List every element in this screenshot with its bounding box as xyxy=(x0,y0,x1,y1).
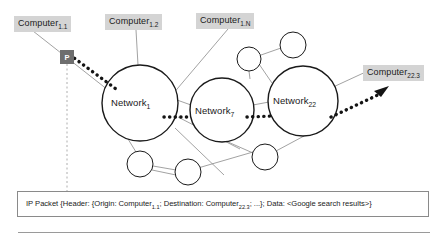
link-router-bot-a-to-router-bot-b-lower xyxy=(152,170,176,175)
host-label-computer-1-1: Computer1.1 xyxy=(14,16,71,32)
host-label-subscript: 1.2 xyxy=(149,20,158,27)
network-label-subscript: 22 xyxy=(309,101,317,108)
link-router-top-a-to-network-22 xyxy=(259,64,272,83)
host-label-subscript: 1.N xyxy=(240,19,250,26)
host-label-computer-1-2: Computer1.2 xyxy=(105,14,162,30)
caption-origin-subscript: 1.1 xyxy=(152,203,160,209)
host-label-name: Computer xyxy=(109,16,149,26)
caption-destination-subscript: 22.3 xyxy=(239,203,250,209)
network-label-name: Network xyxy=(111,97,147,108)
router-bot-a xyxy=(127,151,153,177)
caption-suffix: ; ...}; Data: <Google search results>} xyxy=(250,199,372,208)
router-top-b xyxy=(280,32,306,58)
packet-marker-label: P xyxy=(64,53,69,62)
link-network-1-to-network-7 xyxy=(177,100,191,105)
packet-route-segment-n7-n22 xyxy=(247,116,274,117)
network-label-subscript: 1 xyxy=(147,103,151,110)
caption-mid: ; Destination: Computer xyxy=(160,199,239,208)
link-router-bot-b-to-router-bot-c xyxy=(198,152,253,168)
link-router-top-a-to-network-7 xyxy=(249,71,250,79)
network-label-22: Network22 xyxy=(273,95,316,108)
router-top-a xyxy=(237,47,261,71)
network-label-name: Network xyxy=(273,95,309,106)
host-label-computer-1-n: Computer1.N xyxy=(196,13,254,29)
link-router-bot-c-to-network-22 xyxy=(276,136,304,151)
network-label-1: Network1 xyxy=(111,97,150,110)
link-router-top-a-to-router-top-b xyxy=(261,48,281,55)
link-computer-1-2-to-network-1 xyxy=(136,30,138,65)
host-label-computer-22-3: Computer22.3 xyxy=(363,65,424,81)
network-label-name: Network xyxy=(195,105,231,116)
host-label-subscript: 1.1 xyxy=(58,22,67,29)
link-network-7-to-network-22 xyxy=(253,102,269,105)
host-label-subscript: 22.3 xyxy=(407,71,420,78)
packet-marker-p: P xyxy=(60,50,74,64)
ip-packet-routing-figure: Computer1.1 Computer1.2 Computer1.N Comp… xyxy=(0,0,447,243)
ip-packet-caption-box: IP Packet {Header: {Origin: Computer1.1;… xyxy=(17,191,429,217)
host-label-name: Computer xyxy=(18,18,58,28)
router-bot-b xyxy=(175,159,201,185)
network-label-7: Network7 xyxy=(195,105,234,118)
link-router-bot-a-to-router-bot-b-upper xyxy=(153,166,176,170)
network-label-subscript: 7 xyxy=(231,111,235,118)
router-bot-c xyxy=(252,144,278,170)
host-label-name: Computer xyxy=(367,67,407,77)
link-router-bot-c-to-network-7 xyxy=(228,142,253,153)
bottom-divider xyxy=(18,232,430,233)
ip-packet-caption-text: IP Packet {Header: {Origin: Computer1.1;… xyxy=(18,199,372,210)
caption-prefix: IP Packet {Header: {Origin: Computer xyxy=(26,199,152,208)
host-label-name: Computer xyxy=(200,15,240,25)
